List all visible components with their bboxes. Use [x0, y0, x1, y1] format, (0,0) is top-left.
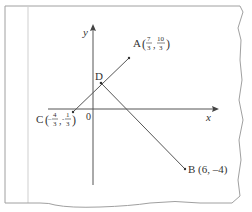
svg-text:C: C — [36, 113, 43, 125]
origin-label: 0 — [86, 111, 91, 122]
svg-text:10: 10 — [157, 35, 165, 43]
point-C-label: C ( – 4 3 , - 1 3 ) — [36, 111, 76, 128]
svg-text:-: - — [62, 115, 65, 123]
svg-text:7: 7 — [147, 35, 151, 43]
svg-text:3: 3 — [147, 44, 151, 52]
svg-text:A: A — [133, 37, 141, 49]
point-D-label: D — [95, 70, 103, 82]
x-axis-arrow-icon — [212, 106, 219, 112]
svg-text:1: 1 — [66, 111, 70, 119]
svg-text:3: 3 — [66, 120, 70, 128]
point-A-label: A ( 7 3 , 10 3 ) — [133, 35, 170, 52]
svg-text:4: 4 — [53, 111, 57, 119]
svg-text:3: 3 — [159, 44, 163, 52]
svg-text:): ) — [72, 113, 76, 127]
point-D — [100, 82, 103, 85]
segment-CA — [73, 58, 129, 112]
segment-DB — [101, 83, 185, 169]
svg-text:,: , — [153, 39, 156, 50]
coordinate-diagram: y x 0 D A ( 7 3 , 10 3 ) C ( – 4 3 , - 1… — [0, 0, 252, 212]
point-B-label: B (6, –4) — [188, 163, 228, 176]
svg-text:–: – — [47, 115, 52, 123]
y-axis-label: y — [82, 26, 88, 38]
point-A — [128, 57, 130, 59]
svg-text:(: ( — [142, 37, 146, 51]
point-B — [184, 168, 186, 170]
svg-text:): ) — [166, 37, 170, 51]
y-axis-arrow-icon — [90, 24, 96, 31]
x-axis-label: x — [205, 111, 211, 123]
svg-text:3: 3 — [53, 120, 57, 128]
axes — [48, 27, 216, 185]
